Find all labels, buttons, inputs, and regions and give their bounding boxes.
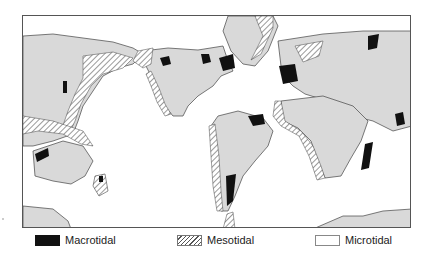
legend-label: Macrotidal xyxy=(65,234,116,246)
land-antarctica-west xyxy=(23,206,71,228)
land-australia xyxy=(33,141,93,184)
mesotidal-swatch xyxy=(177,235,202,246)
map-graphic xyxy=(23,16,411,228)
land-africa xyxy=(281,96,368,178)
microtidal-swatch xyxy=(315,235,340,246)
macrotidal-new-zealand xyxy=(99,176,103,182)
margin-mark xyxy=(2,218,4,220)
macrotidal-mozambique xyxy=(361,142,373,170)
land-antarctic-peninsula xyxy=(223,212,235,228)
macrotidal-swatch xyxy=(35,235,60,246)
legend-item-microtidal: Microtidal xyxy=(315,232,392,248)
legend-item-mesotidal: Mesotidal xyxy=(177,232,254,248)
macrotidal-british-isles xyxy=(279,64,298,84)
macrotidal-korea xyxy=(63,81,67,93)
legend-label: Microtidal xyxy=(345,234,392,246)
land-antarctica-east xyxy=(313,209,411,228)
legend-label: Mesotidal xyxy=(207,234,254,246)
land-north-america xyxy=(143,46,233,116)
world-tidal-map xyxy=(22,15,411,228)
legend-item-macrotidal: Macrotidal xyxy=(35,232,116,248)
